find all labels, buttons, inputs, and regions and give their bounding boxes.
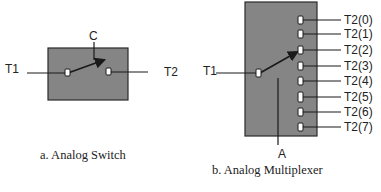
mux-output-contact — [298, 30, 303, 38]
mux-output-contact — [298, 16, 303, 24]
switch-input-label: T1 — [5, 62, 19, 76]
analog-switch: C T1 T2 a. Analog Switch — [5, 29, 178, 162]
switch-output-label: T2 — [164, 65, 178, 79]
mux-input-contact — [256, 69, 261, 77]
mux-output-label: T2(3) — [344, 59, 373, 73]
mux-output-label: T2(2) — [344, 43, 373, 57]
mux-output-label: T2(6) — [344, 105, 373, 119]
mux-output-label: T2(7) — [344, 120, 373, 134]
mux-output-contact — [298, 46, 303, 54]
switch-output-contact — [106, 68, 111, 75]
mux-caption: b. Analog Multiplexer — [212, 163, 324, 177]
mux-input-label: T1 — [203, 64, 217, 78]
mux-output-label: T2(0) — [344, 13, 373, 27]
mux-output-contact — [298, 108, 303, 116]
mux-output-label: T2(1) — [344, 27, 373, 41]
mux-output-label: T2(5) — [344, 90, 373, 104]
mux-output-contact — [298, 92, 303, 102]
switch-control-label: C — [89, 29, 98, 43]
analog-switch-mux-diagram: C T1 T2 a. Analog Switch T1 A T2(0) — [0, 0, 381, 192]
mux-output-label: T2(4) — [344, 74, 373, 88]
mux-output-contact — [298, 77, 303, 85]
analog-multiplexer: T1 A T2(0) T2(1) T2(2) T2(3) — [203, 2, 373, 177]
mux-output-contact — [298, 123, 303, 131]
switch-input-contact — [65, 69, 70, 76]
mux-output-contact — [298, 62, 303, 70]
switch-box — [48, 48, 128, 100]
mux-address-label: A — [278, 147, 286, 161]
switch-caption: a. Analog Switch — [40, 148, 127, 162]
